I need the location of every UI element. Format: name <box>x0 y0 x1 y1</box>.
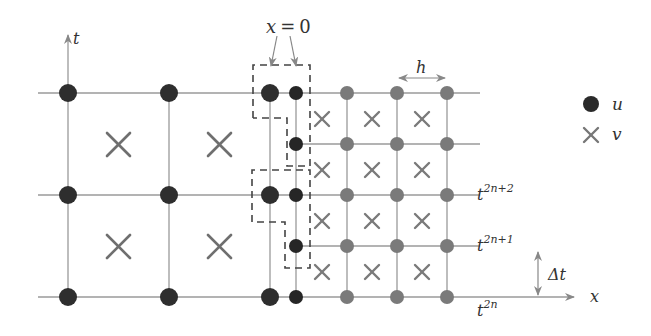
u-dot-icon <box>390 239 404 253</box>
v-cross-icon <box>365 214 379 228</box>
t-axis-label: t <box>73 29 80 48</box>
time-level-label-2n+1: t2n+1 <box>477 233 514 255</box>
x-axis-label: x <box>590 287 599 306</box>
dt-label: Δt <box>547 265 567 284</box>
interface-pointer-arrows <box>271 36 296 66</box>
legend: u v <box>583 94 623 144</box>
v-cross-icon <box>365 265 379 279</box>
v-cross-icon <box>315 265 329 279</box>
u-dot-icon <box>340 239 354 253</box>
u-dot-icon <box>289 290 303 304</box>
u-dot-icon <box>340 290 354 304</box>
v-cross-icon <box>415 214 429 228</box>
u-dot-icon <box>390 86 404 100</box>
u-dot-icon <box>160 288 178 306</box>
u-dot-icon <box>289 188 303 202</box>
v-cross-icon <box>315 112 329 126</box>
v-cross-icon <box>365 112 379 126</box>
v-cross-icon <box>315 214 329 228</box>
v-cross-icon <box>208 133 231 156</box>
v-cross-icon <box>365 163 379 177</box>
u-dot-icon <box>289 86 303 100</box>
interface-label: x=0 <box>266 16 311 37</box>
u-dot-icon <box>59 84 77 102</box>
u-dot-icon <box>261 186 279 204</box>
u-dot-icon <box>289 137 303 151</box>
interface-stencil-lower <box>252 170 310 268</box>
v-cross-icon <box>107 235 130 258</box>
v-cross-icon <box>415 112 429 126</box>
u-dot-icon <box>340 137 354 151</box>
legend-u-dot-icon <box>583 96 599 112</box>
time-level-label-2n+2: t2n+2 <box>477 182 514 204</box>
u-dot-icon <box>390 188 404 202</box>
legend-u-label: u <box>612 94 623 114</box>
v-cross-icon <box>208 235 231 258</box>
u-dot-icon <box>440 290 454 304</box>
u-dot-icon <box>390 290 404 304</box>
u-dot-icon <box>59 288 77 306</box>
u-dot-icon <box>59 186 77 204</box>
u-dot-icon <box>160 186 178 204</box>
u-dot-icon <box>440 239 454 253</box>
u-dot-icon <box>160 84 178 102</box>
u-dot-icon <box>440 137 454 151</box>
legend-v-label: v <box>612 124 622 144</box>
interface-stencil-upper <box>253 65 310 166</box>
h-label: h <box>416 58 426 77</box>
u-dot-icon <box>261 84 279 102</box>
time-level-label-2n: t2n <box>477 298 498 320</box>
v-cross-icon <box>415 265 429 279</box>
u-dot-icon <box>340 188 354 202</box>
grid-svg: t x x=0 h Δt t2n+2 t2n+1 t2n u v <box>0 0 651 336</box>
u-dot-icon <box>289 239 303 253</box>
v-cross-icon <box>415 163 429 177</box>
staggered-grid-diagram: t x x=0 h Δt t2n+2 t2n+1 t2n u v <box>0 0 651 336</box>
u-dot-icon <box>440 188 454 202</box>
v-cross-icon <box>315 163 329 177</box>
u-dot-icon <box>440 86 454 100</box>
u-dot-icon <box>340 86 354 100</box>
v-cross-icon <box>107 133 130 156</box>
horizontal-grid-lines <box>38 93 480 246</box>
legend-v-cross-icon <box>584 128 598 142</box>
u-dot-icon <box>261 288 279 306</box>
u-dot-icon <box>390 137 404 151</box>
